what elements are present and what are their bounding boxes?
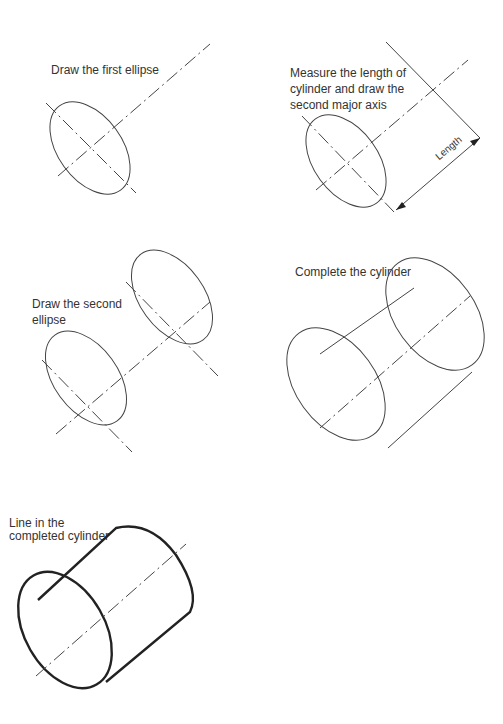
- step2-drawing: [290, 42, 480, 222]
- step1-drawing: [34, 44, 210, 209]
- cylinder-construction-diagram: [0, 0, 503, 724]
- step5-drawing: [0, 527, 193, 705]
- step4-drawing: [267, 240, 503, 459]
- step3-drawing: [29, 235, 229, 452]
